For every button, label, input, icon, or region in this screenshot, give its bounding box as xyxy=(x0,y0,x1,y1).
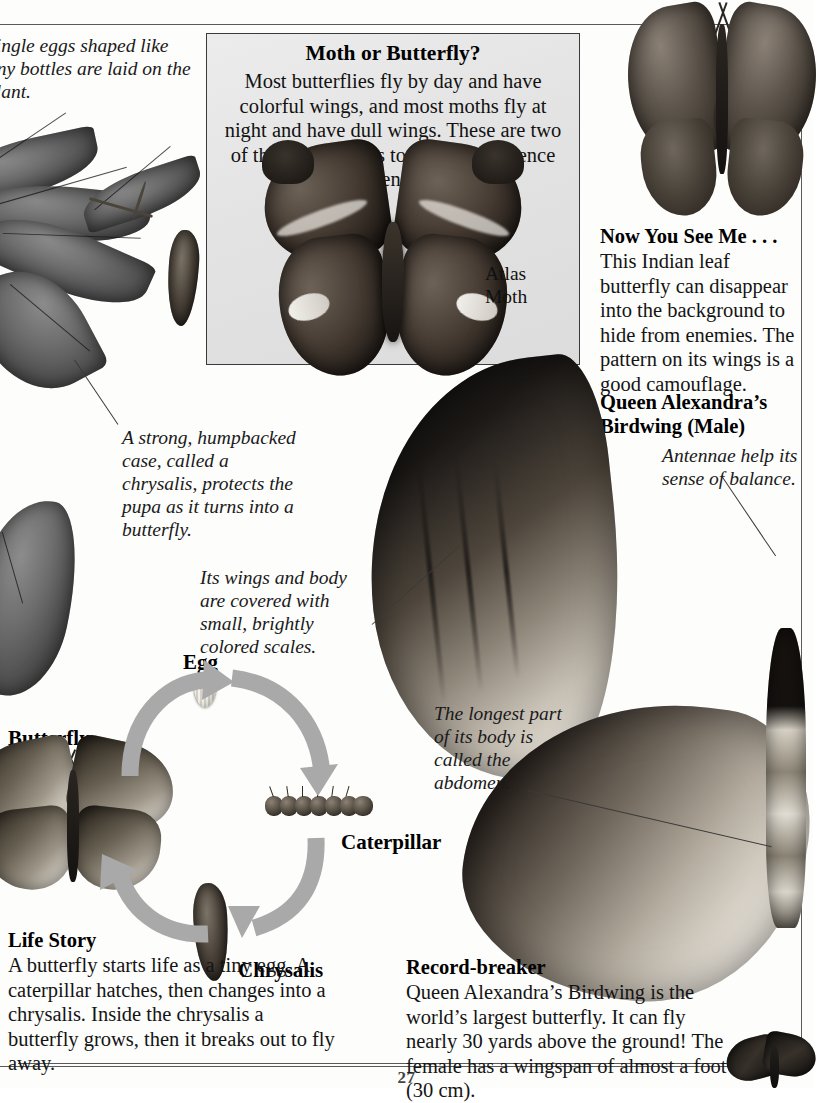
moth-or-butterfly-panel: Moth or Butterfly? Most butterflies fly … xyxy=(206,33,580,365)
birdwing-abdomen xyxy=(766,628,806,928)
now-you-see-me-body: This Indian leaf butterfly can disappear… xyxy=(600,249,798,396)
life-story-heading: Life Story xyxy=(8,928,408,952)
moth-wingtip-left xyxy=(262,140,314,184)
atlas-moth-label-line2: Moth xyxy=(485,285,571,308)
life-story-body: A butterfly starts life as a tiny egg. A… xyxy=(8,953,338,1076)
cycle-label-caterpillar: Caterpillar xyxy=(341,830,441,855)
caption-antennae: Antennae help its sense of balance. xyxy=(662,444,802,490)
caption-eggs-text: Single eggs shaped like tiny bottles are… xyxy=(0,35,191,102)
caption-antennae-text: Antennae help its sense of balance. xyxy=(662,445,797,489)
corner-butterfly-decoration xyxy=(726,1032,816,1094)
section-life-story: Life Story A butterfly starts life as a … xyxy=(8,928,408,1076)
record-breaker-body: Queen Alexandra’s Birdwing is the world’… xyxy=(406,980,736,1103)
leaf-butterfly-hindwing-right xyxy=(723,116,807,219)
leaf-butterfly-body xyxy=(716,24,728,174)
birdwing-heading-line2: Birdwing (Male) xyxy=(600,414,800,438)
moth-body xyxy=(382,222,404,342)
section-now-you-see-me: Now You See Me . . . This Indian leaf bu… xyxy=(600,224,798,396)
corner-butterfly-body xyxy=(770,1046,779,1088)
indian-leaf-butterfly-specimen xyxy=(632,0,812,222)
moth-panel-title: Moth or Butterfly? xyxy=(207,41,579,66)
caption-eggs: Single eggs shaped like tiny bottles are… xyxy=(0,34,196,103)
cycle-arrow-butterfly-to-egg xyxy=(108,658,238,788)
caption-chrysalis-text: A strong, humpbacked case, called a chry… xyxy=(122,427,296,540)
atlas-moth-label: Atlas Moth xyxy=(485,262,571,308)
caption-chrysalis: A strong, humpbacked case, called a chry… xyxy=(122,426,302,541)
section-birdwing-heading: Queen Alexandra’s Birdwing (Male) xyxy=(600,390,800,438)
cycle-arrow-egg-to-caterpillar xyxy=(222,664,352,796)
moth-wingtip-right xyxy=(472,140,524,184)
leaf-butterfly-hindwing-left xyxy=(637,116,721,219)
record-breaker-heading: Record-breaker xyxy=(406,955,736,979)
atlas-moth-label-line1: Atlas xyxy=(485,262,571,285)
butterfly-body xyxy=(67,770,79,882)
birdwing-heading-line1: Queen Alexandra’s xyxy=(600,390,800,414)
now-you-see-me-heading: Now You See Me . . . xyxy=(600,224,798,248)
section-record-breaker: Record-breaker Queen Alexandra’s Birdwin… xyxy=(406,955,736,1103)
butterfly-hindwing-left xyxy=(0,804,76,895)
